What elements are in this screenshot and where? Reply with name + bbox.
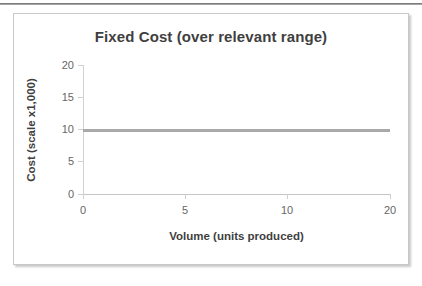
y-tick-mark — [78, 97, 83, 98]
chart-title: Fixed Cost (over relevant range) — [13, 28, 409, 45]
x-axis-line — [83, 194, 391, 195]
x-tick-mark — [390, 194, 391, 199]
y-tick-label: 10 — [50, 124, 74, 135]
page-top-divider — [0, 3, 422, 5]
x-tick-label: 20 — [370, 204, 410, 216]
y-tick-mark — [78, 65, 83, 66]
y-tick-label: 15 — [50, 92, 74, 103]
chart-screenshot: Fixed Cost (over relevant range) Cost (s… — [0, 0, 422, 286]
y-tick-label: 20 — [50, 60, 74, 71]
x-tick-label: 10 — [267, 204, 307, 216]
y-tick-label: 0 — [50, 189, 74, 200]
x-tick-label: 0 — [63, 204, 103, 216]
chart-frame — [13, 13, 409, 265]
fixed-cost-series-line — [83, 129, 390, 132]
x-tick-mark — [287, 194, 288, 199]
y-tick-mark — [78, 161, 83, 162]
x-tick-mark — [83, 194, 84, 199]
y-axis-title: Cost (scale x1,000) — [24, 65, 38, 195]
x-tick-mark — [185, 194, 186, 199]
x-tick-label: 5 — [165, 204, 205, 216]
y-tick-label: 5 — [50, 156, 74, 167]
x-axis-title: Volume (units produced) — [83, 230, 390, 242]
